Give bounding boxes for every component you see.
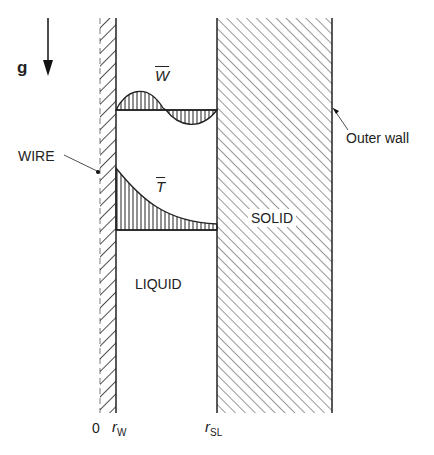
velocity-profile-label: W [155, 67, 169, 84]
velocity-profile-curve [116, 91, 217, 124]
gravity-arrow-icon [43, 18, 53, 76]
axis-origin-label: 0 [92, 420, 100, 436]
diagram-canvas: g W T WIRE Outer wall SOLID LIQUID 0 rW … [0, 0, 434, 455]
solid-label: SOLID [248, 209, 296, 227]
interface-radius-subscript: SL [210, 427, 222, 438]
wire-radius-subscript: W [117, 427, 126, 438]
outer-wall-label: Outer wall [346, 130, 409, 146]
gravity-label: g [17, 58, 27, 78]
diagram-graphics [0, 0, 434, 455]
wire-leader-line [64, 155, 100, 174]
wire-radius-label: rW [112, 418, 126, 438]
temperature-profile-label: T [156, 178, 165, 195]
wire-label: WIRE [18, 148, 55, 164]
wire-region [100, 18, 116, 413]
liquid-label: LIQUID [135, 276, 182, 292]
outer-wall-leader-line [333, 108, 348, 130]
interface-radius-label: rSL [205, 418, 222, 438]
temperature-profile-curve [116, 168, 217, 230]
